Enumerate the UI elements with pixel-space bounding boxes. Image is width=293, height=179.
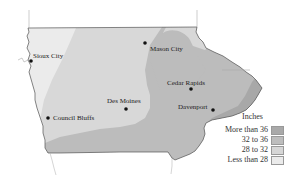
city-label-sioux-city: Sioux City bbox=[33, 53, 63, 60]
legend-label: 32 to 36 bbox=[242, 135, 268, 145]
city-dot-mason-city bbox=[143, 41, 147, 45]
legend-label: 28 to 32 bbox=[242, 145, 268, 155]
legend-label: More than 36 bbox=[225, 125, 268, 135]
city-dot-cedar-rapids bbox=[189, 87, 193, 91]
city-dot-des-moines bbox=[124, 107, 128, 111]
legend-item-more-than-36: More than 36 bbox=[214, 125, 288, 135]
neighbor-border-sw bbox=[50, 153, 56, 175]
city-dot-council-bluffs bbox=[46, 116, 50, 120]
legend-label: Less than 28 bbox=[228, 155, 268, 165]
city-label-mason-city: Mason City bbox=[150, 46, 183, 53]
neighbor-border-se bbox=[171, 158, 172, 174]
legend-swatch bbox=[271, 156, 284, 165]
city-label-davenport: Davenport bbox=[178, 104, 208, 111]
legend-item-less-than-28: Less than 28 bbox=[214, 155, 288, 165]
legend-swatch bbox=[271, 146, 284, 155]
city-label-des-moines: Des Moines bbox=[107, 98, 141, 105]
city-label-council-bluffs: Council Bluffs bbox=[53, 115, 94, 122]
river-sioux bbox=[18, 58, 28, 62]
legend-swatch bbox=[271, 126, 284, 135]
legend-item-32-to-36: 32 to 36 bbox=[214, 135, 288, 145]
city-dot-davenport bbox=[211, 108, 215, 112]
legend-item-28-to-32: 28 to 32 bbox=[214, 145, 288, 155]
legend-swatch bbox=[271, 136, 284, 145]
legend-title: Inches bbox=[242, 112, 263, 121]
city-label-cedar-rapids: Cedar Rapids bbox=[167, 80, 205, 87]
